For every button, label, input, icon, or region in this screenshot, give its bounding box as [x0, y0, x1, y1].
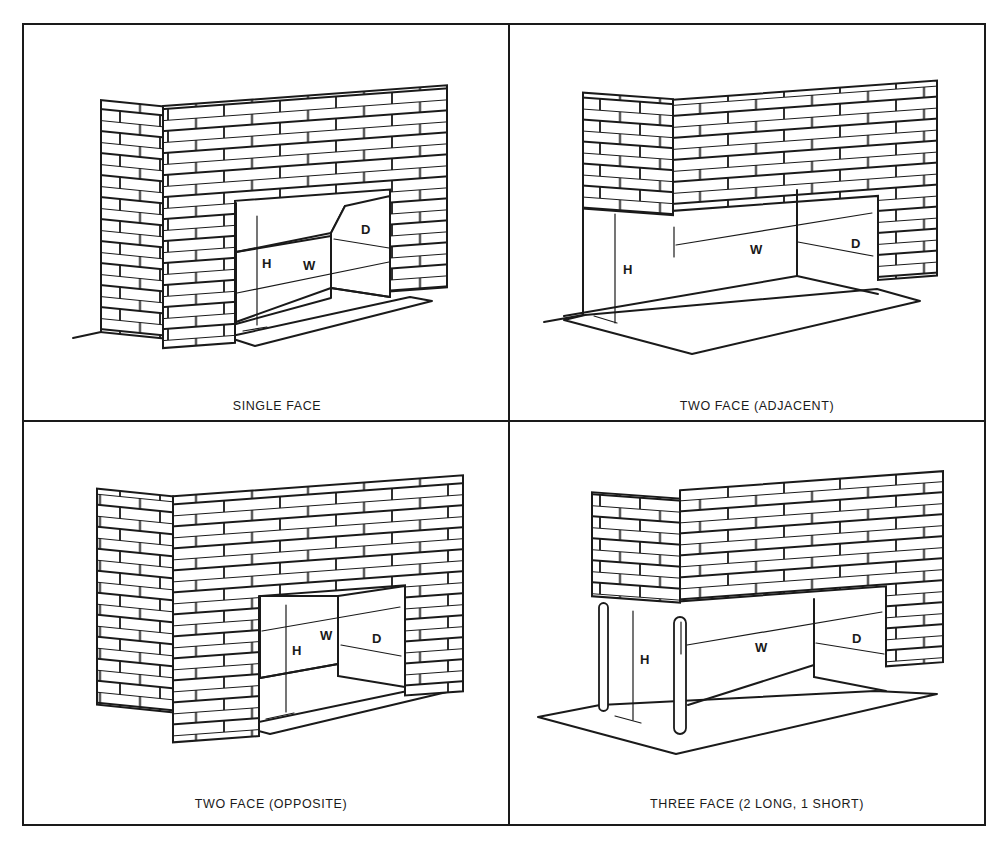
label-w: W — [755, 640, 768, 655]
label-d: D — [361, 222, 370, 237]
left-side-wall — [101, 100, 163, 338]
caption-two-face-opposite: TWO FACE (OPPOSITE) — [195, 797, 347, 811]
ground-line — [73, 332, 101, 338]
label-h: H — [640, 652, 649, 667]
label-w: W — [320, 628, 333, 643]
support-column-front — [674, 617, 686, 734]
label-w: W — [303, 258, 316, 273]
front-wall — [680, 471, 943, 681]
panel-two-face-adjacent: H W D TWO FACE (ADJACENT) — [544, 81, 937, 413]
panel-two-face-opposite: H W D TWO FACE (OPPOSITE) — [97, 475, 463, 811]
label-h: H — [292, 643, 301, 658]
label-d: D — [372, 631, 381, 646]
hearth — [538, 691, 937, 754]
support-column-left — [599, 603, 608, 711]
label-d: D — [851, 236, 860, 251]
label-w: W — [750, 242, 763, 257]
hearth — [564, 289, 920, 354]
fireplace-types-figure: H W D SINGLE FACE H W D TWO FACE (ADJACE… — [0, 0, 1003, 847]
left-side-lintel — [592, 492, 680, 602]
left-side-lintel — [583, 93, 673, 216]
panel-single-face: H W D SINGLE FACE — [73, 85, 447, 413]
caption-single-face: SINGLE FACE — [233, 399, 322, 413]
caption-two-face-adjacent: TWO FACE (ADJACENT) — [680, 399, 834, 413]
depth-dimension — [816, 643, 884, 654]
panel-three-face: H W D THREE FACE (2 LONG, 1 SHORT) — [538, 471, 943, 811]
depth-dimension — [798, 242, 873, 256]
label-h: H — [262, 256, 271, 271]
label-d: D — [852, 631, 861, 646]
caption-three-face: THREE FACE (2 LONG, 1 SHORT) — [650, 797, 864, 811]
left-side-wall — [97, 489, 173, 713]
front-wall — [673, 81, 937, 295]
width-dimension — [676, 213, 872, 245]
label-h: H — [623, 262, 632, 277]
